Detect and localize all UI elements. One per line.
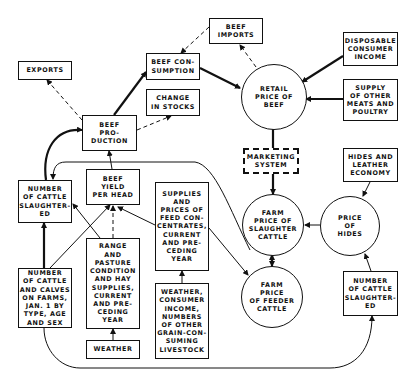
cattle-inventory-node: NUMBER OF CATTLE AND CALVES ON FARMS, JA…	[18, 268, 72, 328]
arrow-consumption-to-retail	[200, 68, 240, 88]
retail-price-beef-node: RETAIL PRICE OF BEEF	[241, 64, 307, 130]
loop-price-to-slaughtered	[53, 162, 250, 250]
beef-consumption-node: BEEF CON- SUMPTION	[146, 53, 200, 80]
disposable-income-node: DISPOSABLE CONSUMER INCOME	[343, 32, 398, 66]
price-of-hides-node: PRICE OF HIDES	[320, 196, 380, 256]
farm-price-feeder-node: FARM PRICE OF FEEDER CATTLE	[241, 266, 303, 328]
arrow-slaughtered-to-production	[45, 130, 82, 180]
feed-supplies-node: SUPPLIES AND PRICES OF FEED CON- CENTRAT…	[155, 182, 209, 271]
arrow-production-to-exports	[47, 80, 82, 120]
exports-node: EXPORTS	[18, 61, 72, 80]
arrow-range-to-slaughtered	[73, 204, 100, 238]
arrow-production-to-consumption	[114, 72, 146, 115]
other-meats-supply-node: SUPPLY OF OTHER MEATS AND POULTRY	[343, 79, 398, 121]
arrow-imports-to-consumption	[181, 27, 209, 53]
beef-production-node: BEEF PRO- DUCTION	[82, 115, 137, 151]
cattle-slaughtered-right-node: NUMBER OF CATTLE SLAUGHTER- ED	[343, 271, 398, 316]
arrow-income-to-retail	[302, 56, 343, 82]
beef-yield-node: BEEF YIELD PER HEAD	[86, 169, 140, 205]
arrow-production-to-stocks	[137, 116, 171, 130]
arrow-feed-to-feeder	[209, 228, 248, 275]
change-in-stocks-node: CHANGE IN STOCKS	[146, 89, 200, 116]
cattle-slaughtered-left-node: NUMBER OF CATTLE SLAUGHTER- ED	[18, 180, 72, 223]
hides-leather-economy-node: HIDES AND LEATHER ECONOMY	[343, 148, 398, 182]
weather-node: WEATHER	[86, 340, 140, 359]
beef-imports-node: BEEF IMPORTS	[209, 18, 263, 44]
arrow-leather-to-hides	[363, 182, 370, 196]
arrow-retail-to-imports	[240, 45, 256, 67]
farm-price-slaughter-node: FARM PRICE OF SLAUGHTER CATTLE	[242, 194, 304, 256]
marketing-system-node: MARKETING SYSTEM	[243, 148, 299, 174]
range-pasture-node: RANGE AND PASTURE CONDITION AND HAY SUPP…	[86, 238, 140, 329]
weather-income-livestock-node: WEATHER, CONSUMER INCOME, NUMBERS OF OTH…	[155, 283, 209, 359]
arrow-yield-to-production	[109, 151, 112, 169]
arrow-slaughtered-to-hides	[365, 254, 371, 271]
arrow-feed-to-yield	[118, 207, 155, 225]
